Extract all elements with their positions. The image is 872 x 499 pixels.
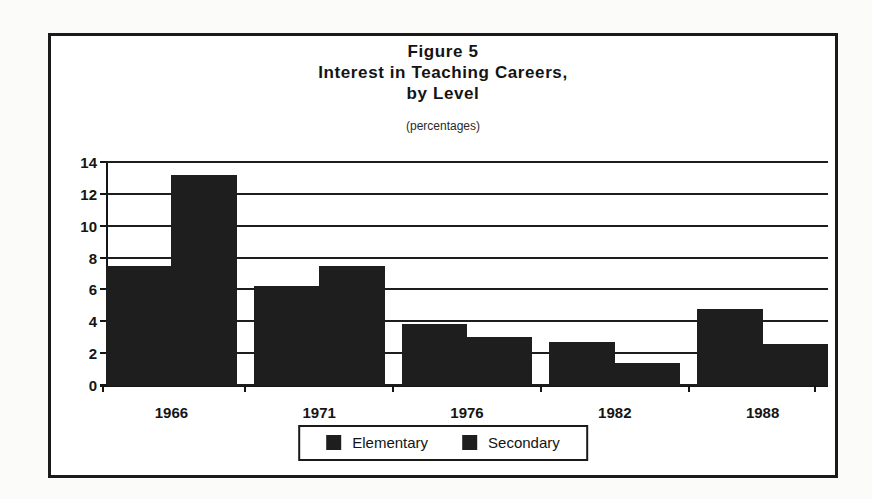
bar-elementary-1982 [549, 342, 614, 385]
y-tick-label-10: 10 [80, 217, 97, 234]
x-tick-mark-end [814, 385, 816, 392]
x-tick-label-1976: 1976 [450, 404, 483, 421]
bar-secondary-1966 [171, 175, 236, 385]
figure-frame: Figure 5 Interest in Teaching Careers, b… [48, 33, 838, 478]
bar-secondary-1988 [763, 344, 828, 385]
y-tick-label-8: 8 [89, 249, 97, 266]
bar-secondary-1982 [615, 363, 680, 385]
x-tick-label-1966: 1966 [155, 404, 188, 421]
y-tick-label-4: 4 [89, 313, 97, 330]
plot-inner: 02468101214 19661971197619821988 [106, 162, 828, 385]
bar-elementary-1988 [697, 309, 762, 385]
y-tick-label-12: 12 [80, 185, 97, 202]
bar-elementary-1976 [402, 324, 467, 385]
legend-label-secondary: Secondary [488, 434, 560, 451]
x-tick-mark-origin [102, 385, 104, 392]
title-line-1: Figure 5 [51, 41, 835, 62]
title-line-3: by Level [51, 83, 835, 104]
gridline-14 [106, 161, 828, 163]
y-tick-label-0: 0 [89, 377, 97, 394]
legend-swatch-icon-elementary [326, 435, 341, 450]
legend-swatch-icon-secondary [462, 435, 477, 450]
page-background: Figure 5 Interest in Teaching Careers, b… [0, 0, 872, 499]
title-line-2: Interest in Teaching Careers, [51, 62, 835, 83]
x-tick-mark-2 [540, 385, 542, 392]
x-tick-mark-0 [244, 385, 246, 392]
bar-secondary-1971 [319, 266, 384, 385]
x-tick-label-1982: 1982 [598, 404, 631, 421]
x-tick-label-1988: 1988 [746, 404, 779, 421]
chart-legend: ElementarySecondary [298, 425, 588, 461]
figure-title: Figure 5 Interest in Teaching Careers, b… [51, 41, 835, 104]
x-tick-mark-3 [688, 385, 690, 392]
bar-secondary-1976 [467, 337, 532, 385]
plot-area: 02468101214 19661971197619821988 [106, 162, 828, 385]
y-tick-label-14: 14 [80, 154, 97, 171]
bar-elementary-1971 [254, 286, 319, 385]
legend-label-elementary: Elementary [352, 434, 428, 451]
y-tick-label-2: 2 [89, 345, 97, 362]
y-tick-mark-8 [100, 257, 107, 259]
x-tick-mark-1 [392, 385, 394, 392]
y-tick-label-6: 6 [89, 281, 97, 298]
y-tick-mark-14 [100, 161, 107, 163]
x-tick-label-1971: 1971 [303, 404, 336, 421]
y-tick-mark-10 [100, 225, 107, 227]
figure-subtitle: (percentages) [51, 119, 835, 133]
y-tick-mark-12 [100, 193, 107, 195]
legend-entry-elementary: Elementary [326, 434, 428, 451]
bar-elementary-1966 [106, 266, 171, 385]
legend-entry-secondary: Secondary [462, 434, 560, 451]
